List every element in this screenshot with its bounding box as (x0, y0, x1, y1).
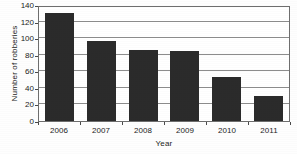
x-axis-tick-label: 2010 (206, 126, 248, 138)
bar (254, 96, 283, 121)
y-axis-tick-label: 80 (25, 52, 34, 60)
bar-chart-figure: Number of robberies 020406080100120140 2… (0, 0, 297, 154)
y-axis-tick-label: 140 (21, 2, 34, 10)
y-axis-tick-label: 60 (25, 68, 34, 76)
plot-area (38, 6, 290, 122)
x-axis-tick-label: 2008 (122, 126, 164, 138)
x-axis-tick-label: 2006 (38, 126, 80, 138)
x-axis-tick-mark (38, 122, 39, 125)
bar (212, 77, 241, 121)
y-axis-tick-label: 120 (21, 19, 34, 27)
x-axis-tick-label: 2009 (164, 126, 206, 138)
y-axis-tick-labels: 020406080100120140 (14, 0, 34, 154)
x-axis-tick-mark (122, 122, 123, 125)
x-axis-tick-mark (290, 122, 291, 125)
x-axis-tick-label: 2007 (80, 126, 122, 138)
bars-group (39, 7, 289, 121)
bar (45, 13, 74, 121)
x-axis-tick-mark (248, 122, 249, 125)
x-axis-tick-mark (80, 122, 81, 125)
y-axis-tick-label: 40 (25, 85, 34, 93)
y-axis-tick-label: 100 (21, 35, 34, 43)
x-axis-tick-mark (206, 122, 207, 125)
x-axis-title: Year (38, 139, 290, 148)
bar (87, 41, 116, 121)
x-axis-tick-mark (164, 122, 165, 125)
x-axis-tick-label: 2011 (248, 126, 290, 138)
y-axis-tick-label: 20 (25, 101, 34, 109)
bar (129, 50, 158, 121)
x-axis-tick-labels: 200620072008200920102011 (38, 126, 290, 138)
bar (170, 51, 199, 121)
y-axis-tick-label: 0 (30, 118, 34, 126)
